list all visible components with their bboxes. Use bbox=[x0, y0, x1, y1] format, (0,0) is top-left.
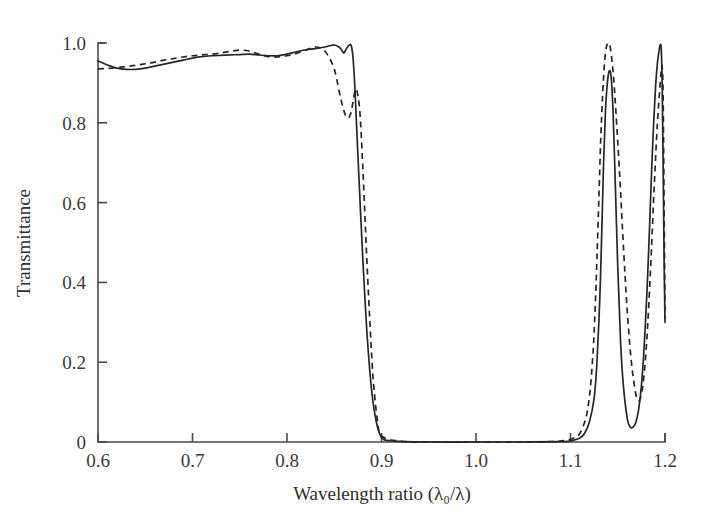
y-tick-label: 0.8 bbox=[62, 113, 86, 134]
y-tick-label: 0.6 bbox=[62, 193, 86, 214]
x-tick-label: 0.8 bbox=[275, 450, 299, 471]
axis-lines bbox=[98, 43, 665, 442]
x-tick-label: 1.2 bbox=[653, 450, 677, 471]
y-tick-label: 0.4 bbox=[62, 272, 86, 293]
x-tick-label: 0.7 bbox=[181, 450, 205, 471]
tick-labels: 0.60.70.80.91.01.11.200.20.40.60.81.0 bbox=[62, 33, 677, 471]
series-line-solid bbox=[98, 44, 665, 442]
x-tick-label: 0.9 bbox=[370, 450, 394, 471]
figure-container: 0.60.70.80.91.01.11.200.20.40.60.81.0 Wa… bbox=[0, 0, 712, 521]
y-tick-label: 1.0 bbox=[62, 33, 86, 54]
y-tick-label: 0 bbox=[77, 432, 87, 453]
x-tick-label: 0.6 bbox=[86, 450, 110, 471]
series-line-dashed bbox=[98, 43, 665, 442]
x-tick-label: 1.0 bbox=[464, 450, 488, 471]
x-axis-title: Wavelength ratio (λ₀/λ) bbox=[293, 483, 471, 505]
y-axis-title: Transmittance bbox=[13, 189, 34, 297]
data-series bbox=[98, 43, 665, 442]
axes bbox=[98, 43, 665, 442]
y-tick-label: 0.2 bbox=[62, 352, 86, 373]
x-tick-label: 1.1 bbox=[559, 450, 583, 471]
transmittance-chart: 0.60.70.80.91.01.11.200.20.40.60.81.0 Wa… bbox=[0, 0, 712, 521]
